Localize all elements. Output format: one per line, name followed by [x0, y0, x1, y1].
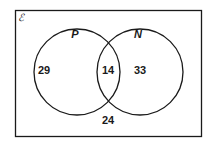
- set-n-label: N: [134, 28, 143, 40]
- universal-set-symbol: ℰ: [18, 12, 25, 23]
- n-only-value: 33: [134, 64, 146, 76]
- p-only-value: 29: [38, 64, 50, 76]
- outside-value: 24: [102, 114, 115, 126]
- intersection-value: 14: [102, 64, 115, 76]
- venn-diagram: ℰ P N 29 14 33 24: [0, 0, 208, 146]
- set-p-label: P: [71, 28, 79, 40]
